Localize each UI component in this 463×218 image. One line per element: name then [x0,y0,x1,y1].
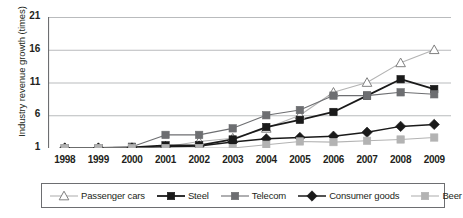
series-markers-telecom [61,89,438,148]
legend-item-passenger-cars[interactable]: Passenger cars [49,190,145,202]
legend-swatch-steel-icon [156,190,186,202]
data-point-beer-2004 [263,141,270,148]
data-point-beer-1999 [95,144,102,148]
chart-legend: Passenger carsSteelTelecomConsumer goods… [41,183,445,208]
data-point-telecom-2007 [363,92,370,99]
legend-marker-consumer-goods [307,190,317,200]
y-tick-label: 11 [18,76,40,87]
legend-label-steel: Steel [188,190,209,201]
legend-item-consumer-goods[interactable]: Consumer goods [297,190,399,202]
data-point-telecom-2009 [431,91,438,98]
data-point-telecom-2001 [162,131,169,138]
legend-swatch-beer-icon [410,190,440,202]
series-line-telecom [65,92,434,148]
data-point-steel-2008 [397,76,404,83]
data-point-beer-2003 [229,144,236,148]
y-tick-label: 16 [18,43,40,54]
legend-swatch-passenger-cars-icon [49,190,79,202]
legend-label-passenger-cars: Passenger cars [81,190,145,201]
x-tick-label: 2009 [414,154,454,165]
data-point-steel-2004 [263,123,270,130]
data-point-beer-2006 [330,138,337,145]
data-point-beer-2001 [162,144,169,148]
legend-marker-beer [422,192,429,199]
data-point-telecom-2003 [229,125,236,132]
legend-item-beer[interactable]: Beer [410,190,461,202]
y-tick-label: 6 [18,108,40,119]
data-point-consumer-goods-2008 [395,121,405,131]
data-point-beer-2008 [397,136,404,143]
plot-area [48,17,451,148]
data-point-passenger-cars-2009 [429,45,439,54]
data-point-passenger-cars-2008 [396,58,406,67]
legend-label-telecom: Telecom [252,190,286,201]
data-point-steel-2006 [330,108,337,115]
data-point-telecom-2004 [263,112,270,119]
chart-container: Industry revenue growth (times) 16111621… [0,0,463,218]
data-point-beer-2002 [195,144,202,148]
data-point-steel-2005 [296,116,303,123]
data-point-consumer-goods-2007 [362,127,372,137]
data-point-passenger-cars-2007 [362,78,372,87]
legend-swatch-consumer-goods-icon [297,190,327,202]
data-point-beer-2007 [363,137,370,144]
data-point-beer-1998 [61,144,68,148]
series-line-consumer-goods [65,124,434,148]
legend-label-beer: Beer [442,190,461,201]
data-point-consumer-goods-2009 [429,119,439,129]
data-point-telecom-2005 [296,106,303,113]
y-tick-label: 21 [18,10,40,21]
data-point-telecom-2002 [195,131,202,138]
y-tick-label: 1 [18,141,40,152]
legend-swatch-telecom-icon [220,190,250,202]
legend-item-telecom[interactable]: Telecom [220,190,286,202]
series-line-steel [65,79,434,148]
series-markers-steel [61,76,438,148]
legend-label-consumer-goods: Consumer goods [329,190,399,201]
legend-item-steel[interactable]: Steel [156,190,209,202]
data-point-beer-2000 [128,144,135,148]
chart-plot-svg [48,17,451,148]
data-point-telecom-2008 [397,89,404,96]
legend-marker-steel [167,192,174,199]
data-point-beer-2005 [296,138,303,145]
data-point-beer-2009 [431,134,438,141]
data-point-telecom-2006 [330,92,337,99]
y-axis-title: Industry revenue growth (times) [16,2,27,142]
series-line-beer [65,138,434,148]
legend-marker-telecom [231,192,238,199]
